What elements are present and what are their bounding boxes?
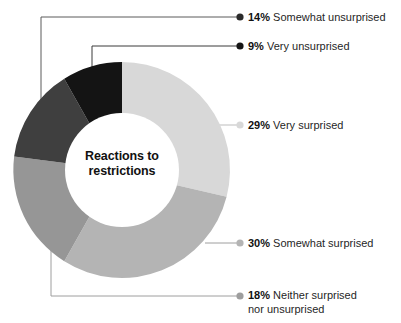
donut-chart: Reactions to restrictions 14% Somewhat u… [0,0,401,323]
callout-pct-very-surprised: 29% [248,119,270,131]
label-dot-very-surprised [236,121,243,128]
label-dot-somewhat-surprised [236,239,243,246]
callout-text-very-surprised: Very surprised [273,119,343,131]
callout-text-neither-surprised-line1: Neither surprised [270,289,357,301]
callout-pct-very-unsurprised: 9% [248,40,264,52]
label-dots [236,13,243,299]
center-title-line-2: restrictions [63,164,181,179]
callout-label-very-unsurprised: 9% Very unsurprised [248,40,350,54]
center-title-line-1: Reactions to [63,149,181,164]
donut-center-title: Reactions to restrictions [63,149,181,179]
callout-label-neither-surprised: 18% Neither surprised nor unsurprised [248,289,388,316]
callout-text-neither-surprised-line2: nor unsurprised [248,303,324,315]
callout-pct-somewhat-unsurprised: 14% [248,11,270,23]
callout-text-somewhat-unsurprised: Somewhat unsurprised [273,11,386,23]
callout-pct-neither-surprised: 18% [248,289,270,301]
label-dot-neither-surprised [236,292,243,299]
label-dot-somewhat-unsurprised [236,13,243,20]
callout-text-very-unsurprised: Very unsurprised [267,40,350,52]
label-dot-very-unsurprised [236,42,243,49]
callout-text-somewhat-surprised: Somewhat surprised [273,237,373,249]
callout-pct-somewhat-surprised: 30% [248,237,270,249]
callout-label-somewhat-unsurprised: 14% Somewhat unsurprised [248,11,386,25]
callout-label-somewhat-surprised: 30% Somewhat surprised [248,237,373,251]
callout-label-very-surprised: 29% Very surprised [248,119,343,133]
